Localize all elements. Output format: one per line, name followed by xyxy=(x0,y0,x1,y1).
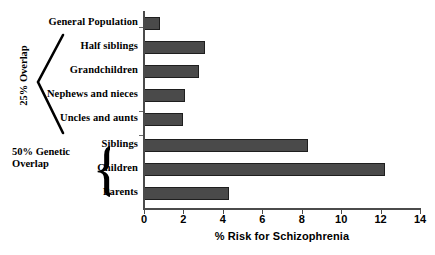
annotation-50-percent-genetic-overlap-label: 50% Genetic Overlap xyxy=(12,146,90,170)
annotation-50-percent-genetic-overlap-brace-icon: { xyxy=(92,137,110,203)
y-axis-tick xyxy=(139,111,143,112)
bar-nephews-and-nieces xyxy=(144,89,185,102)
y-axis-line xyxy=(143,11,145,209)
bar-siblings xyxy=(144,139,308,152)
schizophrenia-risk-bar-chart: General Population Half siblings Grandch… xyxy=(0,0,435,255)
y-axis-tick xyxy=(139,135,143,136)
x-axis-tick-label: 10 xyxy=(326,213,356,225)
x-axis-title: % Risk for Schizophrenia xyxy=(144,230,420,242)
category-label-parents: Parents xyxy=(0,186,138,197)
x-axis-tick-label: 8 xyxy=(287,213,317,225)
bar-uncles-and-aunts xyxy=(144,113,183,126)
annotation-50-line-1: 50% Genetic xyxy=(12,146,70,157)
annotation-50-line-2: Overlap xyxy=(12,158,49,169)
x-axis-tick-label: 2 xyxy=(168,213,198,225)
bar-grandchildren xyxy=(144,65,199,78)
annotation-25-percent-overlap-label: 25% Overlap xyxy=(18,31,29,121)
x-axis-line xyxy=(143,208,421,210)
plot-area xyxy=(144,12,420,208)
bar-parents xyxy=(144,187,229,200)
bar-children xyxy=(144,163,385,176)
x-axis-tick-label: 12 xyxy=(366,213,396,225)
y-axis-tick xyxy=(139,27,143,28)
bar-half-siblings xyxy=(144,41,205,54)
x-axis-tick-label: 14 xyxy=(405,213,435,225)
x-axis-tick-label: 4 xyxy=(208,213,238,225)
category-label-general-population: General Population xyxy=(0,16,138,27)
x-axis-tick-label: 0 xyxy=(129,213,159,225)
annotation-25-percent-overlap-bracket-icon xyxy=(36,32,66,136)
x-axis-tick-label: 6 xyxy=(247,213,277,225)
bar-general-population xyxy=(144,17,160,30)
